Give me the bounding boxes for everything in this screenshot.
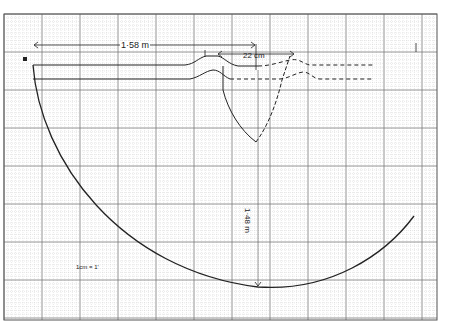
grid-lines <box>4 14 437 320</box>
scale-note: 1cm = 1' <box>76 264 99 270</box>
width-dimension-label: 1·58 m <box>120 41 150 50</box>
gap-dimension-label: 22 cm <box>243 52 265 60</box>
lower-profile-line <box>33 70 230 79</box>
corner-mark <box>23 57 27 61</box>
depth-dimension-label: 1·48 m <box>243 208 251 233</box>
v-curve-right <box>256 56 290 142</box>
large-arc-curve <box>33 65 414 287</box>
lower-dashed-line <box>230 72 373 79</box>
graph-paper-diagram <box>0 0 458 334</box>
